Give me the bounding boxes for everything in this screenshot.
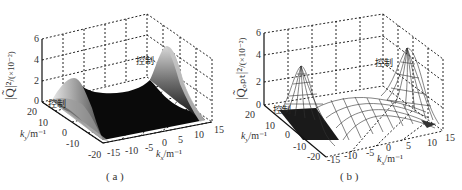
kx-axis-label-b: kx/m⁻¹ [377, 153, 403, 167]
z-axis-label-a: |Q̃|²/(×10⁻²) [2, 51, 18, 100]
annotation-control: 控制 [136, 54, 154, 67]
kx-tick: -10 [125, 146, 138, 156]
caption-a: ( a ) [106, 170, 124, 182]
ky-tick: 20 [245, 110, 255, 120]
annotation-control: 控制 [375, 56, 393, 69]
panel-b: |Q̃ₒₚₜ|²/(×10⁻²) 6 4 2 0 20 10 0 -10 -20… [231, 0, 462, 190]
annotation-control: 控制 [48, 97, 66, 110]
ky-tick: 10 [38, 118, 48, 128]
kx-tick: -5 [145, 143, 153, 153]
ky-tick: 0 [285, 130, 290, 140]
z-tick: 6 [34, 34, 39, 44]
plot-b-canvas [231, 0, 462, 190]
kx-axis-label-a: kx/m⁻¹ [156, 148, 182, 162]
kx-tick: -5 [366, 148, 374, 158]
kx-tick: 5 [178, 135, 183, 145]
kx-tick: 10 [427, 138, 437, 148]
grid-box-b [264, 14, 443, 157]
kx-tick: 10 [194, 130, 204, 140]
z-tick: 6 [256, 28, 261, 38]
z-tick: 0 [256, 100, 261, 110]
kx-tick: 15 [214, 125, 224, 135]
kx-tick: 0 [386, 143, 391, 153]
z-tick: 0 [34, 96, 39, 106]
ky-tick: -20 [307, 152, 320, 162]
ky-tick: -20 [88, 150, 101, 160]
kx-tick: 15 [445, 133, 455, 143]
z-axis-label-b: |Q̃ₒₚₜ|²/(×10⁻²) [233, 37, 249, 100]
panel-a: |Q̃|²/(×10⁻²) 6 4 2 0 20 10 0 -10 -20 ky… [0, 0, 231, 190]
ky-tick: -10 [293, 142, 306, 152]
kx-tick: -10 [344, 151, 357, 161]
z-tick: 4 [256, 50, 261, 60]
z-tick: 4 [34, 55, 39, 65]
annotation-control: 控制 [273, 103, 291, 116]
ky-tick: 20 [27, 107, 37, 117]
kx-tick: 0 [162, 138, 167, 148]
ky-axis-label-a: ky/m⁻¹ [20, 128, 46, 142]
ky-tick: 0 [62, 128, 67, 138]
z-tick: 2 [34, 76, 39, 86]
kx-tick: 5 [406, 141, 411, 151]
kx-tick: -15 [327, 155, 340, 165]
caption-b: ( b ) [340, 170, 358, 182]
ky-axis-label-b: ky/m⁻¹ [241, 130, 267, 144]
z-tick: 2 [256, 77, 261, 87]
kx-tick: -15 [107, 148, 120, 158]
ky-tick: -10 [66, 139, 79, 149]
